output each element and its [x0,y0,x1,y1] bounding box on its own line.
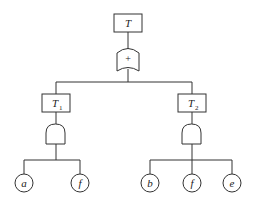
fault-tree-canvas: T + T 1 T 2 a f b f e [0,0,256,208]
or-gate-symbol: + [125,53,131,64]
basic-event-a-label: a [21,177,27,189]
fault-tree-diagram: T + T 1 T 2 a f b f e [0,0,256,208]
basic-event-b-label: b [147,177,153,189]
and-gate-icon [46,124,65,144]
basic-event-e-label: e [230,177,235,189]
t1-subscript: 1 [59,104,63,112]
basic-event-f-right-label: f [190,177,195,189]
t1-label: T [52,97,59,109]
top-event-label: T [125,17,132,29]
t2-subscript: 2 [195,104,199,112]
and-gate-icon [182,124,201,144]
t2-label: T [188,97,195,109]
basic-event-f-left-label: f [78,177,83,189]
